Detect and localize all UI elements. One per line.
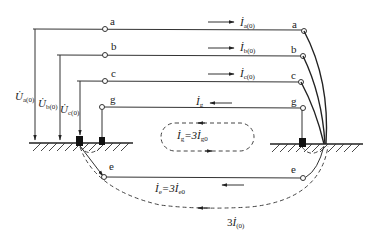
voltage-label-c: U̇c(0) bbox=[60, 103, 80, 117]
loop-label-g: İg=3İg0 bbox=[176, 129, 208, 143]
conductor-b: b b İb(0) U̇b(0) bbox=[38, 40, 306, 140]
ground-electrode-left-1 bbox=[76, 136, 83, 146]
label-e-right: e bbox=[291, 163, 296, 175]
voltage-label-b: U̇b(0) bbox=[38, 97, 58, 111]
fault-curves bbox=[301, 31, 327, 144]
zero-sequence-diagram: a a İa(0) U̇a(0) b b İb(0) U̇b(0) c c İc… bbox=[0, 0, 377, 236]
ground-electrode-left-2 bbox=[99, 137, 105, 145]
current-label-b: İb(0) bbox=[239, 41, 256, 55]
node-e-left bbox=[102, 175, 107, 180]
current-label-a: İa(0) bbox=[239, 16, 256, 30]
voltage-label-a: U̇a(0) bbox=[15, 90, 35, 104]
label-g-left: g bbox=[110, 93, 116, 105]
node-c-left bbox=[103, 79, 108, 84]
label-g-right: g bbox=[291, 95, 297, 107]
conductor-c: c c İc(0) U̇c(0) bbox=[60, 67, 304, 135]
ground-wire-loop: İg=3İg0 bbox=[161, 123, 254, 151]
node-e-right bbox=[301, 176, 306, 181]
label-c-right: c bbox=[291, 69, 296, 81]
total-return-loop: 3İ(0) bbox=[80, 146, 328, 230]
right-earth-arc bbox=[302, 146, 324, 153]
label-a-left: a bbox=[110, 15, 115, 27]
label-e-left: e bbox=[109, 160, 114, 172]
label-c-left: c bbox=[111, 67, 116, 79]
label-a-right: a bbox=[292, 18, 297, 30]
conductor-a: a a İa(0) U̇a(0) bbox=[15, 15, 307, 140]
node-g-left bbox=[100, 105, 105, 110]
current-label-c: İc(0) bbox=[239, 67, 256, 81]
node-g-right bbox=[301, 106, 306, 111]
node-a-left bbox=[103, 27, 108, 32]
conductor-g: g g İg bbox=[100, 93, 306, 138]
ground-right bbox=[270, 138, 363, 152]
ground-electrode-right bbox=[299, 138, 306, 147]
node-b-left bbox=[103, 53, 108, 58]
current-label-g: İg bbox=[195, 95, 204, 109]
label-b-right: b bbox=[291, 43, 297, 55]
earth-current-label: İe=3İe0 bbox=[154, 182, 185, 196]
label-b-left: b bbox=[111, 40, 117, 52]
total-current-label: 3İ(0) bbox=[227, 216, 245, 230]
